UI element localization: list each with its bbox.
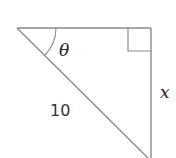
angle-arc — [45, 28, 56, 55]
hypotenuse-label: 10 — [50, 101, 70, 120]
triangle-diagram: θ x 10 — [0, 0, 176, 158]
right-angle-marker — [128, 28, 151, 51]
side-x-label: x — [160, 82, 170, 102]
angle-label: θ — [59, 40, 69, 60]
